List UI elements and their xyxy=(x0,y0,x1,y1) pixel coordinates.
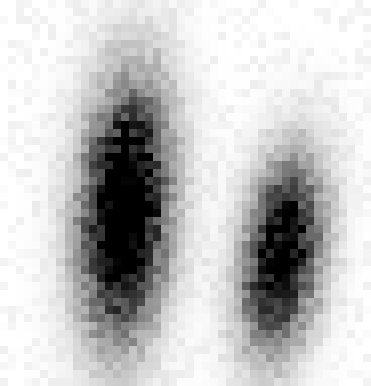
heatmap-cell xyxy=(16,64,24,72)
heatmap-cell xyxy=(250,89,258,97)
heatmap-cell xyxy=(113,362,121,370)
heatmap-cell xyxy=(282,249,290,257)
heatmap-cell xyxy=(355,97,363,105)
heatmap-cell xyxy=(16,161,24,169)
heatmap-cell xyxy=(194,209,202,217)
heatmap-cell xyxy=(282,258,290,266)
heatmap-cell xyxy=(16,40,24,48)
heatmap-cell xyxy=(161,153,169,161)
heatmap-cell xyxy=(161,274,169,282)
heatmap-cell xyxy=(274,290,282,298)
heatmap-cell xyxy=(177,16,185,24)
heatmap-cell xyxy=(32,290,40,298)
heatmap-cell xyxy=(137,145,145,153)
heatmap-cell xyxy=(73,258,81,266)
heatmap-cell xyxy=(65,185,73,193)
heatmap-cell xyxy=(97,169,105,177)
heatmap-cell xyxy=(290,97,298,105)
heatmap-cell xyxy=(306,249,314,257)
heatmap-cell xyxy=(339,24,347,32)
heatmap-cell xyxy=(290,185,298,193)
heatmap-cell xyxy=(8,217,16,225)
heatmap-cell xyxy=(242,330,250,338)
heatmap-cell xyxy=(226,258,234,266)
heatmap-cell xyxy=(282,48,290,56)
heatmap-cell xyxy=(242,378,250,386)
heatmap-cell xyxy=(8,346,16,354)
heatmap-cell xyxy=(105,314,113,322)
heatmap-cell xyxy=(32,177,40,185)
heatmap-cell xyxy=(323,16,331,24)
heatmap-cell xyxy=(137,330,145,338)
heatmap-cell xyxy=(331,258,339,266)
heatmap-cell xyxy=(258,161,266,169)
heatmap-cell xyxy=(282,161,290,169)
heatmap-cell xyxy=(363,322,371,330)
heatmap-cell xyxy=(32,72,40,80)
heatmap-cell xyxy=(250,137,258,145)
heatmap-cell xyxy=(363,217,371,225)
heatmap-cell xyxy=(347,72,355,80)
heatmap-cell xyxy=(161,72,169,80)
heatmap-cell xyxy=(97,64,105,72)
heatmap-cell xyxy=(177,346,185,354)
heatmap-cell xyxy=(48,314,56,322)
heatmap-cell xyxy=(32,274,40,282)
heatmap-cell xyxy=(339,129,347,137)
heatmap-cell xyxy=(282,80,290,88)
heatmap-cell xyxy=(73,298,81,306)
heatmap-cell xyxy=(242,185,250,193)
heatmap-cell xyxy=(56,64,64,72)
heatmap-cell xyxy=(347,129,355,137)
heatmap-cell xyxy=(210,209,218,217)
heatmap-cell xyxy=(274,64,282,72)
heatmap-cell xyxy=(363,32,371,40)
heatmap-cell xyxy=(323,209,331,217)
heatmap-cell xyxy=(129,121,137,129)
heatmap-cell xyxy=(177,97,185,105)
heatmap-cell xyxy=(145,193,153,201)
heatmap-cell xyxy=(113,177,121,185)
heatmap-cell xyxy=(306,306,314,314)
heatmap-cell xyxy=(226,89,234,97)
heatmap-cell xyxy=(347,48,355,56)
heatmap-cell xyxy=(24,241,32,249)
heatmap-cell xyxy=(355,298,363,306)
heatmap-cell xyxy=(314,314,322,322)
heatmap-cell xyxy=(210,290,218,298)
heatmap-cell xyxy=(97,249,105,257)
heatmap-cell xyxy=(210,233,218,241)
heatmap-cell xyxy=(73,24,81,32)
heatmap-cell xyxy=(32,40,40,48)
heatmap-cell xyxy=(89,370,97,378)
heatmap-cell xyxy=(113,64,121,72)
heatmap-cell xyxy=(32,0,40,8)
heatmap-cell xyxy=(169,145,177,153)
heatmap-cell xyxy=(363,378,371,386)
heatmap-cell xyxy=(234,282,242,290)
heatmap-cell xyxy=(137,153,145,161)
heatmap-cell xyxy=(40,314,48,322)
heatmap-cell xyxy=(347,314,355,322)
heatmap-cell xyxy=(331,322,339,330)
heatmap-cell xyxy=(282,266,290,274)
heatmap-cell xyxy=(169,282,177,290)
heatmap-cell xyxy=(113,32,121,40)
heatmap-cell xyxy=(250,217,258,225)
heatmap-cell xyxy=(306,346,314,354)
heatmap-cell xyxy=(306,362,314,370)
heatmap-cell xyxy=(290,16,298,24)
heatmap-cell xyxy=(177,185,185,193)
heatmap-cell xyxy=(32,241,40,249)
heatmap-cell xyxy=(121,201,129,209)
heatmap-cell xyxy=(258,105,266,113)
heatmap-cell xyxy=(210,161,218,169)
heatmap-cell xyxy=(274,258,282,266)
heatmap-cell xyxy=(185,290,193,298)
heatmap-cell xyxy=(137,201,145,209)
heatmap-cell xyxy=(242,201,250,209)
heatmap-cell xyxy=(202,56,210,64)
heatmap-cell xyxy=(89,233,97,241)
heatmap-cell xyxy=(121,0,129,8)
heatmap-cell xyxy=(137,266,145,274)
